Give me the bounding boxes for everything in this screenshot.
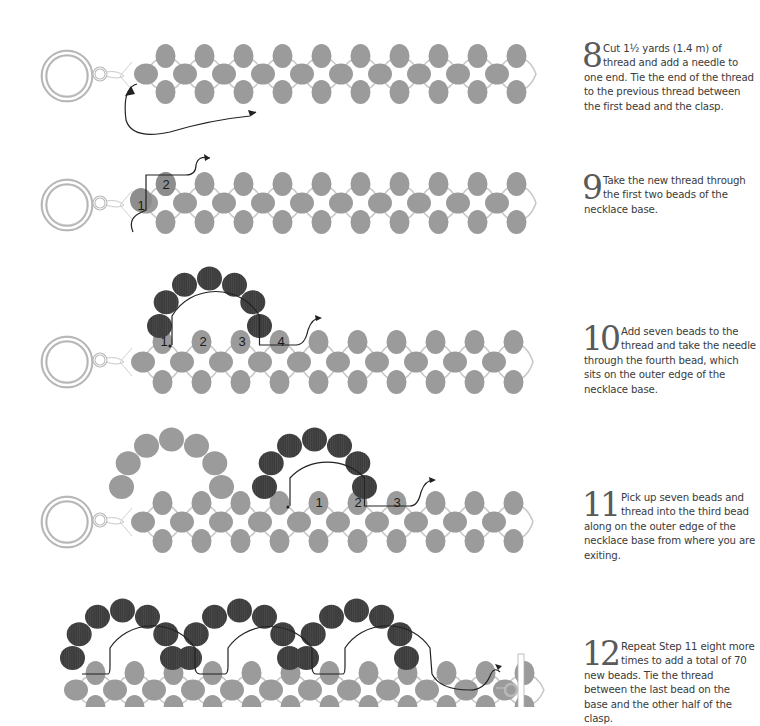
bead-label: 1 [137,198,144,213]
step-12-instruction: 12 Repeat Step 11 eight more times to ad… [584,640,756,726]
step-9-instruction: 9 Take the new thread through the first … [584,174,756,217]
bead-label: 1 [160,334,167,349]
bead-label: 3 [238,334,245,349]
step-number: 11 [582,491,618,518]
step-8-instruction: 8 Cut 1½ yards (1.4 m) of thread and add… [584,42,756,114]
bead-label: 2 [199,334,206,349]
bead-label: 2 [162,177,169,192]
bead-label: 4 [277,334,284,349]
bead-label: 3 [393,495,400,510]
step-number: 10 [582,325,618,352]
bead-label: 1 [315,495,322,510]
step-8-diagram [41,44,536,134]
step-number: 8 [582,42,600,69]
step-number: 12 [582,640,618,667]
step-10-diagram: 1234 [41,267,533,395]
step-11-instruction: 11 Pick up seven beads and thread into t… [584,491,756,563]
step-text: Take the new thread through the first tw… [584,175,746,215]
step-9-diagram: 12 [41,154,536,234]
step-12-diagram [60,599,544,708]
step-text: Cut 1½ yards (1.4 m) of thread and add a… [584,43,754,112]
step-11-diagram: 123 [41,428,533,554]
step-10-instruction: 10 Add seven beads to the thread and tak… [584,325,756,397]
bead-label: 2 [354,495,361,510]
step-number: 9 [582,174,600,201]
